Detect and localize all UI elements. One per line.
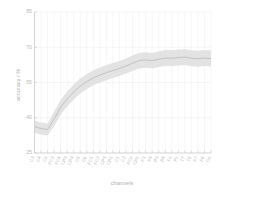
y-tick-label: 25 xyxy=(26,149,32,155)
chart-figure: 2540557085 C3C4CzFC3FC4CP3CP4C5C6FC1FC2C… xyxy=(0,0,253,198)
y-tick-label: 40 xyxy=(26,114,32,120)
accuracy-vs-channels-line-chart: 2540557085 C3C4CzFC3FC4CP3CP4C5C6FC1FC2C… xyxy=(0,0,253,198)
y-tick-label: 70 xyxy=(26,44,32,50)
y-tick-label: 55 xyxy=(26,79,32,85)
figure-background xyxy=(0,0,253,198)
y-axis-title: accuracy / % xyxy=(15,69,21,101)
x-axis-title: channels xyxy=(111,180,134,186)
y-tick-label: 85 xyxy=(26,8,32,14)
